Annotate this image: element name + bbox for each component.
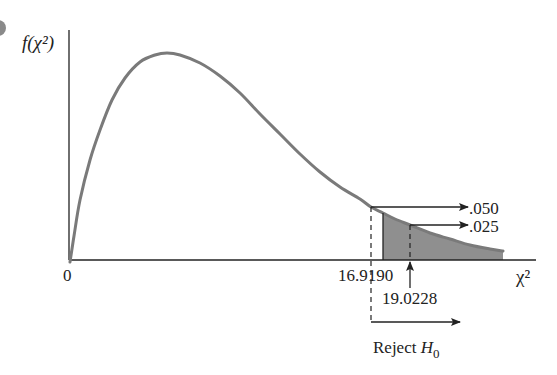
critical-value-050-label: 16.9190 <box>338 266 393 285</box>
alpha-025-label: .025 <box>469 217 499 236</box>
chi-square-chart: f(χ²) 0 χ² 16.9190 19.0228 .050 .025 Rej… <box>0 0 557 375</box>
bullet-dot <box>0 20 6 36</box>
reject-h0-label: Reject H0 <box>373 338 439 361</box>
origin-label: 0 <box>63 266 72 285</box>
alpha-050-label: .050 <box>469 199 499 218</box>
x-axis-label: χ² <box>515 266 530 287</box>
critical-value-025-label: 19.0228 <box>382 289 437 308</box>
y-axis-label: f(χ²) <box>22 32 54 54</box>
density-curve <box>70 53 503 262</box>
